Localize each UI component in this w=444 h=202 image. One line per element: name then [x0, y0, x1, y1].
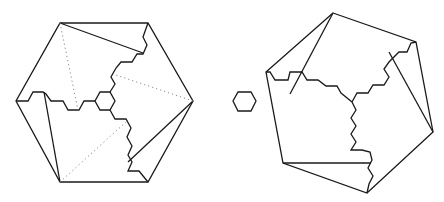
left-hexagon-outline — [16, 23, 193, 182]
left-dotted-line-2 — [116, 75, 193, 101]
small-hexagon-piece — [233, 92, 256, 111]
right-hexagon-outline — [266, 13, 433, 193]
right-fold-line-2 — [389, 52, 433, 132]
left-dotted-line-1 — [60, 23, 78, 110]
right-zigzag-arm-left — [266, 72, 352, 102]
right-fold-line-1 — [290, 13, 333, 94]
right-zigzag-arm-up — [352, 42, 416, 102]
right-hexagon-figure — [266, 13, 433, 193]
left-zigzag-arm-left — [16, 92, 95, 110]
left-dotted-line-3 — [60, 122, 126, 182]
right-zigzag-arm-down — [351, 102, 373, 193]
left-fold-line-1 — [60, 23, 143, 53]
left-fold-line-2 — [128, 101, 193, 162]
left-zigzag-arm-down — [110, 110, 148, 182]
left-zigzag-arm-up — [110, 23, 148, 92]
left-hexagon-figure — [16, 23, 193, 182]
left-center-hexagon — [95, 92, 115, 110]
hexagon-dissection-diagram — [0, 0, 444, 202]
